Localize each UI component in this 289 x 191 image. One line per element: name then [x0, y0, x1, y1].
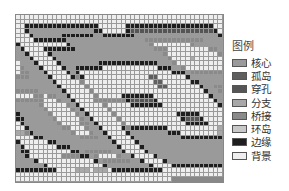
legend-item-background: 背景: [232, 149, 271, 162]
legend-item-edge: 边缘: [232, 136, 271, 149]
legend-title: 图例: [232, 40, 271, 54]
legend-swatch: [232, 138, 247, 146]
legend-item-branch: 分支: [232, 96, 271, 109]
legend-item-islet: 孤岛: [232, 69, 271, 82]
legend-swatch: [232, 59, 247, 67]
legend-label: 核心: [251, 57, 271, 69]
legend-label: 穿孔: [251, 83, 271, 95]
legend-label: 边缘: [251, 136, 271, 148]
legend-swatch: [232, 72, 247, 80]
legend-item-core: 核心: [232, 56, 271, 69]
legend-swatch: [232, 85, 247, 93]
legend-item-loop: 环岛: [232, 122, 271, 135]
legend: 图例 核心 孤岛 穿孔 分支 桥接 环岛 边缘 背景: [232, 40, 271, 162]
legend-label: 分支: [251, 97, 271, 109]
legend-label: 孤岛: [251, 70, 271, 82]
legend-label: 桥接: [251, 110, 271, 122]
legend-label: 环岛: [251, 123, 271, 135]
legend-swatch: [232, 99, 247, 107]
legend-item-perforation: 穿孔: [232, 83, 271, 96]
grid-cell-background: [168, 177, 173, 182]
legend-swatch: [232, 112, 247, 120]
legend-item-bridge: 桥接: [232, 109, 271, 122]
legend-label: 背景: [251, 150, 271, 162]
pattern-grid: [15, 14, 224, 183]
grid-cell-background: [218, 173, 223, 178]
legend-swatch: [232, 125, 247, 133]
legend-swatch: [232, 152, 247, 160]
